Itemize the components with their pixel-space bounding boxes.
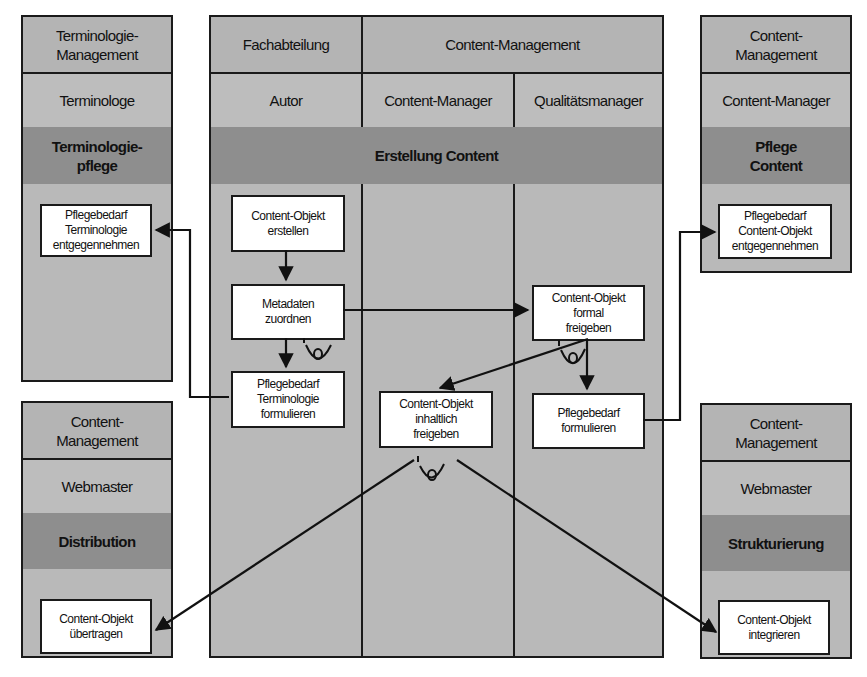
role-header: Terminologe [23,74,171,127]
activity-terminology-receive[interactable]: Pflegebedarf Terminologie entgegennehmen [40,204,152,257]
process-band: Erstellung Content [211,127,662,184]
role-autor: Autor [211,74,361,127]
activity-transfer[interactable]: Content-Objekt übertragen [40,599,152,654]
activity-formal-release[interactable]: Content-Objekt formal freigeben [532,285,645,341]
lane-divider [361,184,363,656]
panel-terminologie-management: Terminologie-Management Terminologe Term… [21,15,173,382]
department-header: Content-Management [702,405,850,462]
panel-pflege-content: Content-Management Content-Manager Pfleg… [700,15,852,273]
role-qualitaetsmanager: Qualitätsmanager [515,74,662,127]
department-header: Content-Management [23,403,171,460]
department-content-management: Content-Management [363,17,662,74]
activity-content-release[interactable]: Content-Objekt inhaltlich freigeben [379,391,493,448]
role-header: Content-Manager [702,74,850,127]
panel-strukturierung: Content-Management Webmaster Strukturier… [700,403,852,659]
process-band: Strukturierung [702,515,850,571]
activity-terminology-need[interactable]: Pflegebedarf Terminologie formulieren [231,371,345,428]
activity-content-need-receive[interactable]: Pflegebedarf Content-Objekt entgegennehm… [718,204,832,259]
panel-distribution: Content-Management Webmaster Distributio… [21,401,173,658]
process-band: Terminologie-pflege [23,127,171,184]
activity-metadata[interactable]: Metadaten zuordnen [231,284,345,340]
role-header: Webmaster [23,460,171,513]
department-fachabteilung: Fachabteilung [211,17,363,74]
activity-need[interactable]: Pflegebedarf formulieren [532,393,645,449]
activity-create[interactable]: Content-Objekt erstellen [231,195,345,252]
department-header: Terminologie-Management [23,17,171,74]
process-band: Distribution [23,513,171,569]
lane-divider [513,74,515,127]
lane-divider [361,74,363,127]
process-band: Pflege Content [702,127,850,184]
role-content-manager: Content-Manager [363,74,513,127]
department-header: Content-Management [702,17,850,74]
activity-integrate[interactable]: Content-Objekt integrieren [718,600,830,655]
lane-divider [513,184,515,656]
panel-erstellung-content: Fachabteilung Content-Management Autor C… [209,15,664,658]
role-header: Webmaster [702,462,850,515]
